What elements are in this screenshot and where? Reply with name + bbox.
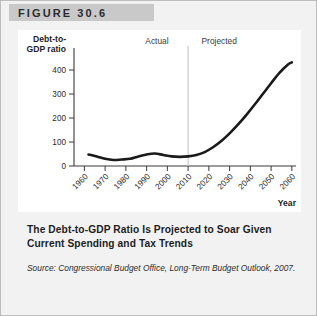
- debt-to-gdp-line-chart: Debt-to-GDP ratio0100200300400ActualProj…: [18, 30, 301, 212]
- x-tick-label-1970: 1970: [91, 172, 111, 192]
- y-tick-label-400: 400: [52, 66, 66, 75]
- x-tick-label-2000: 2000: [154, 172, 174, 192]
- x-tick-label-2060: 2060: [278, 172, 298, 192]
- x-axis-title: Year: [278, 198, 297, 208]
- figure-number-banner: FIGURE 30.6: [9, 4, 154, 21]
- annotation-actual: Actual: [145, 36, 168, 46]
- x-tick-label-2050: 2050: [257, 172, 277, 192]
- figure-card: FIGURE 30.6 Debt-to-GDP ratio01002003004…: [0, 0, 317, 316]
- annotation-projected: Projected: [202, 36, 238, 46]
- y-axis-title-line2: GDP ratio: [27, 44, 66, 54]
- x-tick-label-2030: 2030: [216, 172, 236, 192]
- chart-plot-panel: Debt-to-GDP ratio0100200300400ActualProj…: [18, 30, 301, 212]
- x-tick-label-2040: 2040: [237, 172, 257, 192]
- x-tick-label-1960: 1960: [71, 172, 91, 192]
- x-tick-label-1990: 1990: [133, 172, 153, 192]
- y-tick-label-0: 0: [61, 162, 66, 171]
- debt-to-gdp-curve: [89, 62, 292, 160]
- y-axis-title: Debt-to-: [33, 34, 66, 44]
- figure-source: Source: Congressional Budget Office, Lon…: [27, 263, 299, 275]
- y-tick-label-200: 200: [52, 114, 66, 123]
- x-tick-label-1980: 1980: [112, 172, 132, 192]
- y-tick-label-300: 300: [52, 90, 66, 99]
- x-tick-label-2010: 2010: [174, 172, 194, 192]
- y-tick-label-100: 100: [52, 138, 66, 147]
- figure-number-label: FIGURE 30.6: [18, 7, 107, 19]
- figure-caption: The Debt-to-GDP Ratio Is Projected to So…: [27, 223, 299, 251]
- x-tick-label-2020: 2020: [195, 172, 215, 192]
